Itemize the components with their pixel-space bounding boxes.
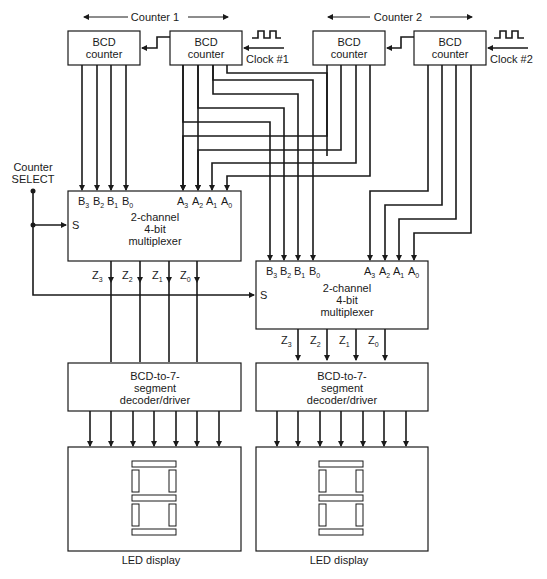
bcd-counter-2a: BCD counter [313, 31, 385, 65]
select-label: Counter [13, 161, 52, 173]
wires-counter1a-to-mux1 [82, 65, 126, 190]
bcd-counter-1b: BCD counter [170, 31, 242, 65]
wires-counter2b-to-mux2 [370, 65, 471, 260]
decoder-label: decoder/driver [307, 394, 378, 406]
mux-label: 4-bit [144, 223, 165, 235]
mux-label: 4-bit [336, 294, 357, 306]
bcd-counter-1a: BCD counter [68, 31, 140, 65]
decoder-label: BCD-to-7- [130, 370, 180, 382]
svg-text:Z1: Z1 [152, 269, 163, 283]
clock-1: Clock #1 [244, 31, 289, 65]
led-display-label: LED display [122, 554, 181, 566]
decoder-label: decoder/driver [120, 394, 191, 406]
svg-text:Z3: Z3 [281, 334, 292, 348]
svg-text:Z0: Z0 [180, 269, 191, 283]
multiplexer-1: B3 B2 B1 B0 A3 A2 A1 A0 S 2-channel 4-bi… [68, 191, 241, 261]
decoder-2: BCD-to-7- segment decoder/driver [256, 363, 428, 411]
svg-text:Z0: Z0 [368, 334, 379, 348]
svg-text:Z1: Z1 [339, 334, 350, 348]
mux1-outputs: Z3 Z2 Z1 Z0 [92, 261, 200, 362]
mux-label: multiplexer [128, 235, 182, 247]
mux-label: 2-channel [131, 211, 179, 223]
bcd-counter-label: counter [188, 48, 225, 60]
decoder-label: segment [134, 382, 176, 394]
clock-waveform-icon [494, 31, 524, 38]
carry-wire-2 [387, 37, 414, 48]
clock-2: Clock #2 [488, 31, 533, 65]
bcd-counter-label: counter [331, 48, 368, 60]
led-display-1: LED display [68, 447, 241, 566]
diagram-canvas: Counter 1 Counter 2 BCD counter BCD coun… [0, 0, 547, 579]
clock-waveform-icon [252, 31, 281, 38]
clock-2-label: Clock #2 [490, 53, 533, 65]
mux-label: multiplexer [320, 306, 374, 318]
led-display-label: LED display [310, 554, 369, 566]
decoder-label: BCD-to-7- [317, 370, 367, 382]
select-pin-label: S [260, 289, 267, 301]
mux-label: 2-channel [323, 282, 371, 294]
decoder-label: segment [321, 382, 363, 394]
multiplexer-2: B3 B2 B1 B0 A3 A2 A1 A0 S 2-channel 4-bi… [256, 261, 428, 329]
segment-wires-2 [277, 411, 406, 446]
bcd-counter-label: BCD [194, 36, 217, 48]
clock-1-label: Clock #1 [246, 53, 289, 65]
bcd-counter-label: counter [86, 48, 123, 60]
bcd-counter-2b: BCD counter [414, 31, 486, 65]
counter-1-label-group: Counter 1 [84, 11, 228, 23]
counter-1-label: Counter 1 [131, 11, 179, 23]
bcd-counter-label: BCD [438, 36, 461, 48]
bcd-counter-label: BCD [92, 36, 115, 48]
svg-text:Z2: Z2 [310, 334, 321, 348]
mux2-outputs: Z3 Z2 Z1 Z0 [281, 329, 385, 360]
led-display-2: LED display [256, 447, 428, 566]
counter-2-label: Counter 2 [374, 11, 422, 23]
select-pin-label: S [72, 219, 79, 231]
svg-text:Z2: Z2 [122, 269, 133, 283]
decoder-1: BCD-to-7- segment decoder/driver [68, 363, 241, 411]
bcd-counter-label: BCD [337, 36, 360, 48]
counter-2-label-group: Counter 2 [328, 11, 472, 23]
carry-wire-1 [142, 37, 170, 48]
bcd-counter-label: counter [432, 48, 469, 60]
select-label: SELECT [12, 173, 55, 185]
svg-text:Z3: Z3 [92, 269, 103, 283]
segment-wires-1 [90, 411, 219, 446]
